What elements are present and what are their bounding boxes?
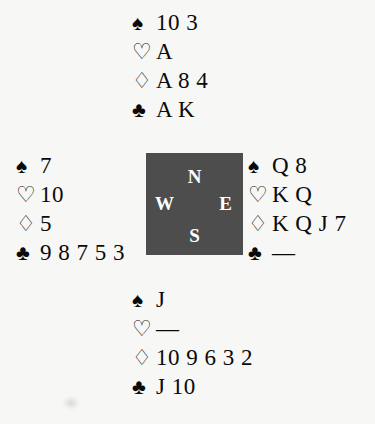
hand-east-hearts-cards: K Q: [272, 180, 312, 209]
club-icon: ♣: [248, 239, 272, 268]
hand-north-spades-cards: 10 3: [156, 8, 198, 37]
hand-east-clubs-cards: —: [272, 238, 295, 267]
hand-west: ♠ 7 ♡ 10 ♢ 5 ♣ 9 8 7 5 3: [16, 151, 125, 267]
hand-south-hearts-row: ♡ —: [132, 314, 253, 343]
hand-north-diamonds-cards: A 8 4: [156, 66, 208, 95]
hand-south-hearts-cards: —: [156, 314, 179, 343]
compass-west-label: W: [155, 194, 174, 213]
heart-icon: ♡: [132, 314, 156, 343]
hand-north-hearts-cards: A: [156, 37, 173, 66]
spade-icon: ♠: [132, 9, 156, 38]
hand-west-spades-cards: 7: [40, 151, 52, 180]
hand-east-diamonds-cards: K Q J 7: [272, 209, 346, 238]
bridge-deal-diagram: ♠ 10 3 ♡ A ♢ A 8 4 ♣ A K ♠ 7 ♡ 10 ♢ 5: [0, 0, 375, 424]
hand-west-diamonds-cards: 5: [40, 209, 52, 238]
hand-south-diamonds-cards: 10 9 6 3 2: [156, 343, 253, 372]
hand-east-hearts-row: ♡ K Q: [248, 180, 346, 209]
hand-north-clubs-row: ♣ A K: [132, 95, 208, 124]
diamond-icon: ♢: [248, 209, 272, 238]
hand-east-diamonds-row: ♢ K Q J 7: [248, 209, 346, 238]
hand-west-spades-row: ♠ 7: [16, 151, 125, 180]
club-icon: ♣: [132, 96, 156, 125]
compass-north-label: N: [146, 167, 243, 186]
compass-east-label: E: [219, 194, 232, 213]
hand-east: ♠ Q 8 ♡ K Q ♢ K Q J 7 ♣ —: [248, 151, 346, 267]
hand-south-spades-cards: J: [156, 285, 165, 314]
hand-south-spades-row: ♠ J: [132, 285, 253, 314]
hand-south: ♠ J ♡ — ♢ 10 9 6 3 2 ♣ J 10: [132, 285, 253, 401]
hand-west-hearts-cards: 10: [40, 180, 64, 209]
hand-north: ♠ 10 3 ♡ A ♢ A 8 4 ♣ A K: [132, 8, 208, 124]
hand-north-spades-row: ♠ 10 3: [132, 8, 208, 37]
hand-west-clubs-cards: 9 8 7 5 3: [40, 238, 125, 267]
club-icon: ♣: [16, 239, 40, 268]
diamond-icon: ♢: [132, 343, 156, 372]
hand-north-clubs-cards: A K: [156, 95, 195, 124]
spade-icon: ♠: [16, 152, 40, 181]
diamond-icon: ♢: [16, 209, 40, 238]
hand-south-clubs-row: ♣ J 10: [132, 372, 253, 401]
hand-south-diamonds-row: ♢ 10 9 6 3 2: [132, 343, 253, 372]
spade-icon: ♠: [132, 286, 156, 315]
diamond-icon: ♢: [132, 66, 156, 95]
hand-east-spades-cards: Q 8: [272, 151, 307, 180]
heart-icon: ♡: [132, 37, 156, 66]
hand-north-hearts-row: ♡ A: [132, 37, 208, 66]
heart-icon: ♡: [248, 180, 272, 209]
heart-icon: ♡: [16, 180, 40, 209]
hand-west-clubs-row: ♣ 9 8 7 5 3: [16, 238, 125, 267]
hand-east-clubs-row: ♣ —: [248, 238, 346, 267]
hand-south-clubs-cards: J 10: [156, 372, 196, 401]
hand-north-diamonds-row: ♢ A 8 4: [132, 66, 208, 95]
compass-south-label: S: [146, 226, 243, 245]
scan-smudge-artifact: [62, 396, 80, 410]
compass-box: N W E S: [146, 153, 243, 255]
hand-west-hearts-row: ♡ 10: [16, 180, 125, 209]
spade-icon: ♠: [248, 152, 272, 181]
club-icon: ♣: [132, 373, 156, 402]
hand-west-diamonds-row: ♢ 5: [16, 209, 125, 238]
hand-east-spades-row: ♠ Q 8: [248, 151, 346, 180]
